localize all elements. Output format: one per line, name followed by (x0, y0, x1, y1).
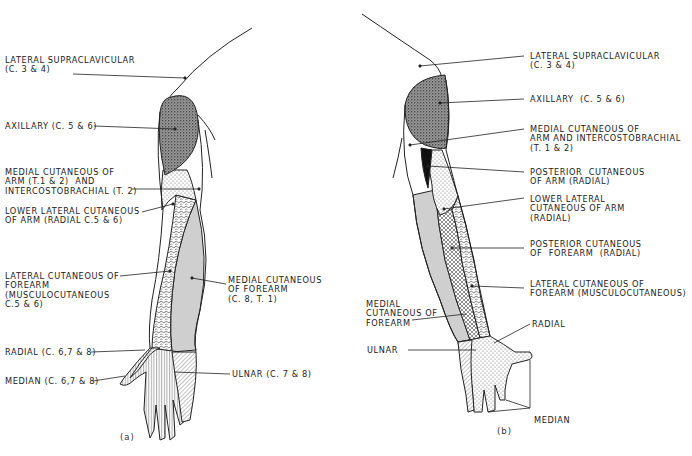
label-b-lower-lateral-cutaneous: LOWER LATERAL CUTANEOUS OF ARM (RADIAL) (530, 195, 625, 223)
label-b-ulnar: ULNAR (367, 346, 398, 355)
label-a-radial: RADIAL (C. 6,7 & 8) (5, 348, 96, 357)
label-b-posterior-cutaneous-arm: POSTERIOR CUTANEOUS OF ARM (RADIAL) (530, 168, 645, 187)
label-b-lateral-supraclavicular: LATERAL SUPRACLAVICULAR (C. 3 & 4) (530, 52, 660, 71)
label-b-posterior-cutaneous-forearm: POSTERIOR CUTANEOUS OF FOREARM (RADIAL) (530, 240, 642, 259)
label-b-medial-cutaneous-forearm: MEDIAL CUTANEOUS OF FOREARM (366, 300, 438, 328)
label-b-radial: RADIAL (532, 320, 565, 329)
label-a-medial-cutaneous-arm: MEDIAL CUTANEOUS OF ARM (T.1 & 2) AND IN… (5, 168, 137, 196)
caption-a: (a) (120, 432, 135, 442)
label-b-medial-cutaneous-arm: MEDIAL CUTANEOUS OF ARM AND INTERCOSTOBR… (530, 125, 681, 153)
label-a-ulnar: ULNAR (C. 7 & 8) (232, 370, 312, 379)
caption-b: (b) (497, 426, 512, 436)
label-a-lateral-cutaneous-forearm: LATERAL CUTANEOUS OF FOREARM (MUSCULOCUT… (5, 272, 119, 310)
label-a-axillary: AXILLARY (C. 5 & 6) (5, 122, 97, 131)
label-a-median: MEDIAN (C. 6,7 & 8) (5, 377, 99, 386)
label-a-lateral-supraclavicular: LATERAL SUPRACLAVICULAR (C. 3 & 4) (5, 56, 135, 75)
label-b-lateral-cutaneous-forearm: LATERAL CUTANEOUS OF FOREARM (MUSCULOCUT… (530, 280, 686, 299)
label-b-median: MEDIAN (534, 416, 570, 425)
label-b-axillary: AXILLARY (C. 5 & 6) (530, 95, 625, 104)
label-a-lower-lateral-cutaneous: LOWER LATERAL CUTANEOUS OF ARM (RADIAL C… (5, 207, 140, 226)
label-a-medial-cutaneous-forearm: MEDIAL CUTANEOUS OF FOREARM (C. 8, T. 1) (228, 276, 322, 304)
